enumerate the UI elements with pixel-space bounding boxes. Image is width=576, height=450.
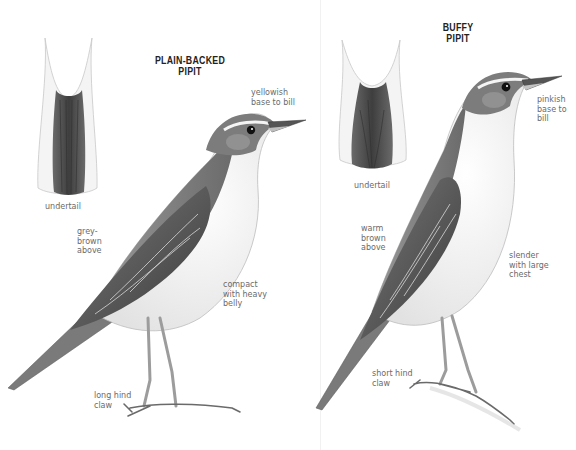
species-title-line1: BUFFY [433,22,482,33]
label-bill-buffy: pinkish base to bill [537,95,567,124]
undertail-illustration-right [339,40,406,169]
label-undertail-buffy: undertail [354,181,390,191]
label-upperparts-buffy: warm brown above [361,224,386,253]
undertail-illustration-left [38,38,97,195]
species-title-buffy-pipit: BUFFY PIPIT [433,22,482,44]
label-claw-buffy: short hind claw [372,369,413,388]
label-undertail-plain-backed: undertail [45,202,81,212]
label-upperparts-plain-backed: grey- brown above [77,227,102,256]
field-guide-spread: PLAIN-BACKED PIPIT yellowish base to bil… [0,0,576,450]
species-title-line2: PIPIT [433,33,482,44]
label-claw-plain-backed: long hind claw [94,391,131,410]
label-body-plain-backed: compact with heavy belly [223,280,267,309]
species-title-plain-backed-pipit: PLAIN-BACKED PIPIT [144,55,236,77]
illustrations [0,0,576,450]
label-bill-plain-backed: yellowish base to bill [251,88,295,107]
label-body-buffy: slender with large chest [509,251,549,280]
species-title-line2: PIPIT [144,66,236,77]
species-title-line1: PLAIN-BACKED [144,55,236,66]
